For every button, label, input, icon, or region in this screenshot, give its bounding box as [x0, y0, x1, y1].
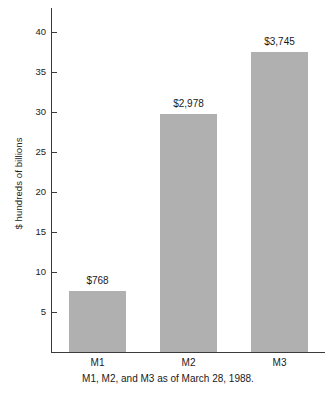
x-axis-line	[51, 352, 325, 353]
bars-layer	[0, 0, 336, 352]
x-axis-label-m2: M2	[182, 357, 196, 368]
bar-m3[interactable]	[251, 52, 308, 352]
chart-caption: M1, M2, and M3 as of March 28, 1988.	[0, 373, 336, 384]
bar-m1[interactable]	[69, 291, 126, 352]
x-axis-label-m1: M1	[91, 357, 105, 368]
bar-value-label: $3,745	[264, 36, 295, 47]
bar-m2[interactable]	[160, 114, 217, 352]
bar-value-label: $768	[86, 275, 108, 286]
bar-value-label: $2,978	[173, 98, 204, 109]
bar-chart: $ hundreds of billions 510152025303540 M…	[0, 0, 336, 398]
x-axis-label-m3: M3	[273, 357, 287, 368]
